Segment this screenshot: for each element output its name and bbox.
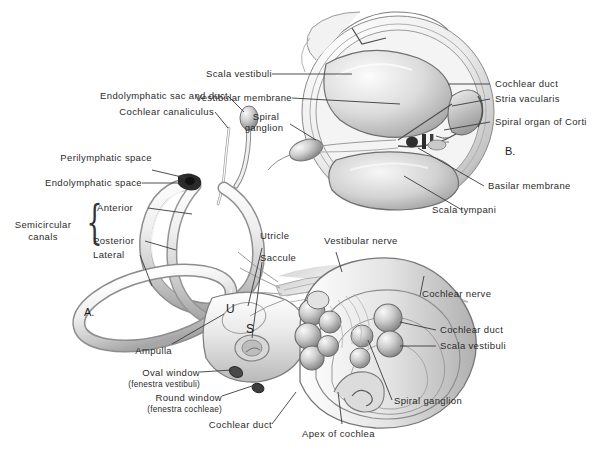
label-scala-vestibuli-a: Scala vestibuli bbox=[440, 340, 506, 351]
label-semicircular-canals-line2: canals bbox=[6, 231, 80, 242]
label-spiral-ganglion-a: Spiral ganglion bbox=[394, 395, 462, 406]
label-endolymphatic-sac-and-duct: Endolymphatic sac and duct bbox=[60, 90, 228, 101]
figure-canvas: Scala vestibuli Vestibular membrane Spir… bbox=[0, 0, 596, 449]
label-round-window: Round window bbox=[114, 392, 222, 403]
label-saccule: Saccule bbox=[260, 252, 296, 263]
label-cochlear-duct-a-bottom: Cochlear duct bbox=[168, 419, 272, 430]
panel-b-label: B. bbox=[505, 145, 515, 157]
label-semicircular-canals-line1: Semicircular bbox=[6, 219, 80, 230]
label-stria-vascularis: Stria vacularis bbox=[495, 93, 560, 104]
label-spiral-organ-of-corti: Spiral organ of Corti bbox=[495, 116, 587, 127]
label-utricle: Utricle bbox=[260, 230, 289, 241]
utricle-marker: U bbox=[226, 302, 235, 316]
saccule-marker: S bbox=[246, 322, 254, 336]
label-scala-tympani: Scala tympani bbox=[432, 204, 496, 215]
label-posterior-canal: Posterior bbox=[93, 235, 134, 246]
label-cochlear-nerve: Cochlear nerve bbox=[422, 288, 491, 299]
label-perilymphatic-space: Perilymphatic space bbox=[40, 152, 152, 163]
label-apex-of-cochlea: Apex of cochlea bbox=[302, 428, 375, 439]
label-ampulla: Ampulla bbox=[88, 345, 172, 356]
label-round-window-latin: (fenestra cochleae) bbox=[104, 404, 222, 415]
label-spiral-ganglion-b-line1: Spiral bbox=[240, 111, 292, 122]
panel-a-label: A. bbox=[84, 306, 94, 318]
panel-b-artwork bbox=[268, 12, 494, 210]
label-oval-window: Oval window bbox=[104, 367, 200, 378]
label-endolymphatic-space: Endolymphatic space bbox=[22, 177, 142, 188]
label-lateral-canal: Lateral bbox=[93, 249, 125, 260]
label-cochlear-canaliculus: Cochlear canaliculus bbox=[80, 106, 214, 117]
label-basilar-membrane: Basilar membrane bbox=[488, 180, 571, 191]
label-anterior-canal: Anterior bbox=[97, 202, 133, 213]
label-oval-window-latin: (fenestra vestibuli) bbox=[92, 379, 200, 390]
label-cochlear-duct-b: Cochlear duct bbox=[495, 78, 558, 89]
label-vestibular-nerve: Vestibular nerve bbox=[324, 235, 398, 246]
label-spiral-ganglion-b-line2: ganglion bbox=[236, 122, 292, 133]
label-scala-vestibuli-b: Scala vestibuli bbox=[112, 68, 272, 79]
label-cochlear-duct-a-right: Cochlear duct bbox=[440, 324, 503, 335]
